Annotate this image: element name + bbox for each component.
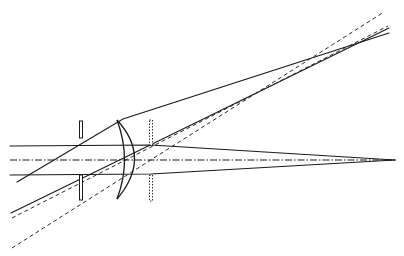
- dashed-ray-inner: [12, 26, 388, 218]
- front-stop-top: [80, 121, 83, 138]
- rear-stop-bottom: [150, 175, 153, 201]
- axial-ray-upper: [10, 145, 395, 160]
- oblique-solid-rays: [11, 28, 389, 213]
- oblique-dashed-rays: [12, 12, 388, 248]
- optical-ray-diagram: [0, 0, 404, 256]
- axial-ray-lower: [10, 160, 395, 175]
- oblique-ray-lower: [11, 28, 389, 213]
- front-stop-bottom: [80, 175, 83, 200]
- rear-stop-top: [150, 120, 153, 145]
- dashed-ray-outer: [12, 12, 384, 248]
